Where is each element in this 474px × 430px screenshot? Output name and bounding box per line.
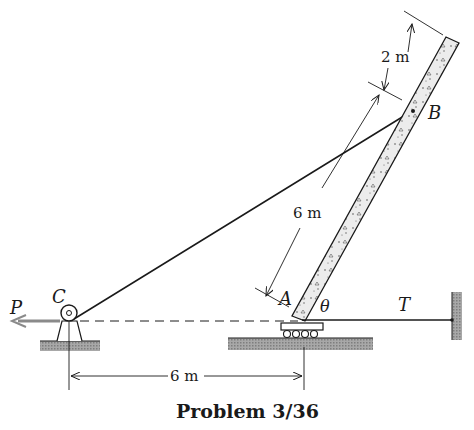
label-t: T: [398, 294, 412, 315]
problem-caption: Problem 3/36: [176, 400, 319, 422]
ground-a: [228, 338, 373, 350]
label-a: A: [277, 288, 292, 309]
label-c: C: [52, 286, 66, 307]
dimension-2m: 2 m: [381, 48, 410, 66]
label-p: P: [9, 297, 23, 318]
label-theta: θ: [320, 297, 330, 316]
statics-diagram: 2 m 6 m 6 m P C A B θ T Problem 3/36: [0, 0, 474, 430]
pole: [292, 37, 459, 321]
wall: [452, 292, 462, 340]
ground-c: [40, 341, 100, 351]
dimension-6m-pole: 6 m: [293, 204, 322, 222]
label-b: B: [427, 102, 441, 123]
dimension-6m-horizontal: 6 m: [170, 367, 199, 385]
pulley-c: [57, 305, 82, 341]
point-b: [411, 109, 415, 113]
roller-cart: [281, 323, 323, 338]
